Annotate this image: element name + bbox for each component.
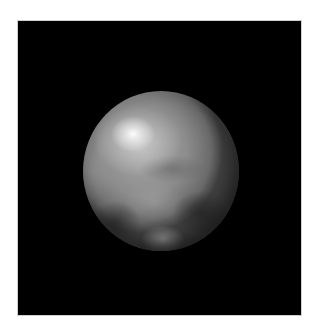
planet-limb-shading: [83, 91, 239, 251]
planet-sphere: [83, 91, 239, 251]
